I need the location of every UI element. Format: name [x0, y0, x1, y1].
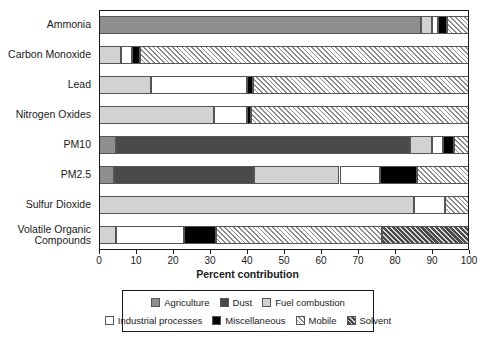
legend-swatch-icon: [262, 298, 271, 307]
bar-track: [99, 76, 469, 94]
legend-label: Fuel combustion: [275, 297, 345, 308]
bar-track: [99, 136, 469, 154]
legend-swatch-icon: [347, 316, 356, 325]
legend-item-fuel[interactable]: Fuel combustion: [262, 297, 345, 308]
bar-segment-mobile: [253, 76, 469, 94]
bar-segment-mobile: [445, 196, 469, 214]
bar-row: [99, 76, 469, 94]
legend-item-solvent[interactable]: Solvent: [347, 315, 392, 326]
x-tick: [210, 250, 211, 254]
x-tick: [358, 250, 359, 254]
x-tick: [99, 250, 100, 254]
category-label: Ammonia: [47, 19, 91, 31]
bar-segment-industrial: [121, 46, 132, 64]
legend-label: Agriculture: [164, 297, 209, 308]
x-tick: [321, 250, 322, 254]
x-tick: [173, 250, 174, 254]
bar-track: [99, 16, 469, 34]
x-tick-label: 50: [278, 255, 289, 266]
legend-swatch-icon: [296, 316, 305, 325]
bar-segment-fuel: [99, 226, 116, 244]
bar-segment-misc: [443, 136, 454, 154]
x-tick: [136, 250, 137, 254]
x-tick-label: 0: [96, 255, 102, 266]
category-label: Carbon Monoxide: [8, 49, 91, 61]
category-axis-labels: AmmoniaCarbon MonoxideLeadNitrogen Oxide…: [0, 10, 95, 250]
bar-segment-mobile: [454, 136, 469, 154]
x-tick: [247, 250, 248, 254]
x-tick-label: 90: [426, 255, 437, 266]
category-label: PM2.5: [61, 169, 91, 181]
legend-label: Solvent: [360, 315, 392, 326]
bar-segment-agriculture: [99, 166, 114, 184]
category-label: PM10: [64, 139, 91, 151]
x-axis-title: Percent contribution: [0, 268, 495, 280]
bar-row: [99, 196, 469, 214]
stacked-bar-chart: AmmoniaCarbon MonoxideLeadNitrogen Oxide…: [0, 0, 495, 356]
legend-swatch-icon: [151, 298, 160, 307]
bar-segment-fuel: [99, 76, 151, 94]
bar-segment-solvent: [382, 226, 469, 244]
bar-segment-fuel: [421, 16, 432, 34]
bar-row: [99, 136, 469, 154]
bar-segment-industrial: [432, 136, 443, 154]
plot-area: [99, 10, 469, 250]
legend-label: Industrial processes: [118, 315, 202, 326]
bar-segment-mobile: [140, 46, 469, 64]
bar-row: [99, 46, 469, 64]
legend-swatch-icon: [212, 316, 221, 325]
bar-segment-agriculture: [99, 16, 421, 34]
bar-segment-mobile: [216, 226, 383, 244]
bar-segment-fuel: [254, 166, 339, 184]
x-tick-label: 10: [130, 255, 141, 266]
bar-track: [99, 106, 469, 124]
bar-segment-fuel: [410, 136, 432, 154]
bar-track: [99, 226, 469, 244]
x-tick: [469, 250, 470, 254]
legend-item-agriculture[interactable]: Agriculture: [151, 297, 209, 308]
bar-segment-mobile: [447, 16, 469, 34]
x-tick-label: 100: [461, 255, 478, 266]
bar-segment-misc: [184, 226, 215, 244]
x-tick: [284, 250, 285, 254]
legend-label: Dust: [233, 297, 253, 308]
legend-row-2: Industrial processesMiscellaneousMobileS…: [123, 311, 373, 329]
legend-label: Miscellaneous: [225, 315, 285, 326]
x-tick: [432, 250, 433, 254]
bar-track: [99, 46, 469, 64]
bar-segment-misc: [132, 46, 139, 64]
bar-track: [99, 166, 469, 184]
bar-segment-industrial: [214, 106, 247, 124]
x-tick-label: 60: [315, 255, 326, 266]
legend-item-mobile[interactable]: Mobile: [296, 315, 337, 326]
bar-segment-industrial: [340, 166, 381, 184]
bar-segment-misc: [438, 16, 447, 34]
bar-row: [99, 106, 469, 124]
bar-segment-misc: [380, 166, 417, 184]
bar-segment-industrial: [151, 76, 247, 94]
x-tick-label: 20: [167, 255, 178, 266]
bar-segment-industrial: [116, 226, 184, 244]
category-label: Sulfur Dioxide: [26, 199, 91, 211]
legend-swatch-icon: [220, 298, 229, 307]
bar-segment-industrial: [414, 196, 445, 214]
category-label: Nitrogen Oxides: [16, 109, 91, 121]
legend-item-misc[interactable]: Miscellaneous: [212, 315, 285, 326]
bar-track: [99, 196, 469, 214]
bar-row: [99, 226, 469, 244]
bars-container: [99, 10, 469, 250]
legend-label: Mobile: [309, 315, 337, 326]
x-tick: [395, 250, 396, 254]
legend-item-dust[interactable]: Dust: [220, 297, 253, 308]
bar-segment-mobile: [251, 106, 469, 124]
x-tick-label: 70: [352, 255, 363, 266]
x-tick-label: 40: [241, 255, 252, 266]
bar-segment-dust: [116, 136, 410, 154]
x-tick-label: 30: [204, 255, 215, 266]
bar-segment-fuel: [99, 196, 414, 214]
bar-row: [99, 16, 469, 34]
legend-item-industrial[interactable]: Industrial processes: [105, 315, 202, 326]
bar-segment-fuel: [99, 106, 214, 124]
bar-row: [99, 166, 469, 184]
legend-row-1: AgricultureDustFuel combustion: [123, 293, 373, 311]
